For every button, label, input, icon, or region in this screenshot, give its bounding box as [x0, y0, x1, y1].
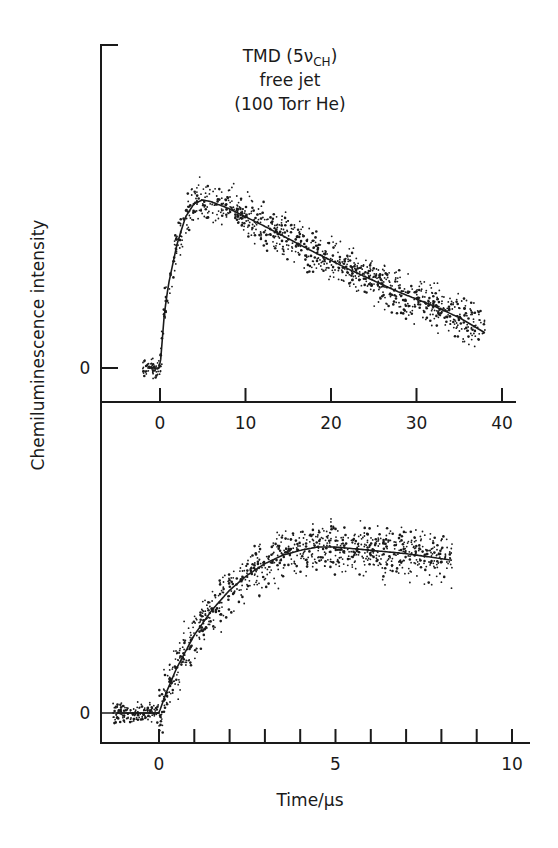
bottom-y-zero-label: 0: [80, 703, 91, 723]
bottom-x-tick-labels: 0510: [154, 754, 523, 774]
svg-text:40: 40: [491, 413, 513, 433]
svg-text:10: 10: [235, 413, 257, 433]
axes-frame: [100, 44, 530, 744]
chart-figure: 010203040 0510 0 0: [0, 0, 558, 848]
svg-text:0: 0: [155, 413, 166, 433]
top-x-tick-labels: 010203040: [155, 413, 513, 433]
svg-text:20: 20: [320, 413, 342, 433]
bottom-x-ticks: [159, 729, 512, 743]
svg-text:5: 5: [330, 754, 341, 774]
svg-text:30: 30: [406, 413, 428, 433]
top-data-points: [142, 176, 486, 379]
bottom-fit-curve: [117, 547, 452, 713]
top-y-zero-label: 0: [80, 358, 91, 378]
top-x-ticks: [160, 388, 502, 402]
svg-text:10: 10: [501, 754, 523, 774]
svg-text:0: 0: [154, 754, 165, 774]
